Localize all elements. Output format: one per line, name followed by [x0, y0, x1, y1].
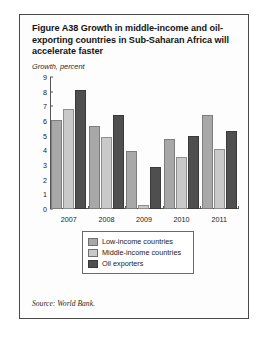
legend-swatch-middle-income [88, 249, 98, 257]
x-axis-tick-label: 2010 [174, 215, 190, 224]
figure-container: Figure A38 Growth in middle-income and o… [19, 14, 249, 319]
y-axis-tick-label: 1 [43, 190, 50, 199]
bar-low-income-countries [89, 126, 100, 209]
bar-low-income-countries [202, 115, 213, 209]
bar-middle-income-countries [63, 109, 74, 209]
bar-low-income-countries [51, 120, 62, 209]
bar-oil-exporters [188, 136, 199, 209]
bar-group [88, 77, 126, 209]
bar-chart-plot: 0123456789 20072008200920102011 [32, 73, 240, 227]
bar-oil-exporters [75, 90, 86, 209]
y-axis-tick-label: 6 [43, 117, 50, 126]
x-axis-tick-mark [125, 206, 126, 209]
source-note: Source: World Bank. [32, 299, 95, 308]
axis-note: Growth, percent [32, 62, 85, 71]
bar-oil-exporters [226, 131, 237, 209]
bar-middle-income-countries [138, 205, 149, 209]
y-axis-tick-label: 4 [43, 146, 50, 155]
chart-legend: Low-income countries Middle-income count… [82, 231, 194, 274]
x-axis-tick-mark [163, 206, 164, 209]
x-axis-tick-label: 2009 [136, 215, 152, 224]
bar-low-income-countries [126, 151, 137, 209]
bar-middle-income-countries [214, 149, 225, 209]
bar-middle-income-countries [176, 157, 187, 209]
y-axis-tick-label: 0 [43, 205, 50, 214]
bar-oil-exporters [150, 167, 161, 209]
bar-middle-income-countries [101, 137, 112, 209]
plot-area: 0123456789 [50, 77, 238, 209]
bar-group [163, 77, 201, 209]
legend-item: Low-income countries [88, 236, 188, 247]
x-axis-tick-mark [238, 206, 239, 209]
y-axis-tick-label: 3 [43, 161, 50, 170]
y-axis-tick-label: 5 [43, 131, 50, 140]
x-axis-tick-label: 2008 [98, 215, 114, 224]
legend-label-low-income: Low-income countries [102, 237, 173, 246]
legend-label-oil-exporters: Oil exporters [102, 259, 143, 268]
bar-low-income-countries [164, 139, 175, 209]
bar-group [200, 77, 238, 209]
x-axis-tick-mark [88, 206, 89, 209]
legend-swatch-low-income [88, 238, 98, 246]
y-axis-tick-label: 7 [43, 102, 50, 111]
y-axis-tick-label: 2 [43, 175, 50, 184]
legend-item: Middle-income countries [88, 247, 188, 258]
x-axis-tick-mark [200, 206, 201, 209]
x-axis-tick-label: 2007 [61, 215, 77, 224]
legend-swatch-oil-exporters [88, 260, 98, 268]
bar-group [50, 77, 88, 209]
legend-label-middle-income: Middle-income countries [102, 248, 181, 257]
x-axis-tick-label: 2011 [211, 215, 226, 224]
bar-oil-exporters [113, 115, 124, 209]
legend-item: Oil exporters [88, 258, 188, 269]
bar-group [125, 77, 163, 209]
x-axis-tick-mark [50, 206, 51, 209]
figure-title: Figure A38 Growth in middle-income and o… [32, 23, 238, 58]
y-axis-tick-label: 9 [43, 73, 50, 82]
y-axis-tick-label: 8 [43, 87, 50, 96]
